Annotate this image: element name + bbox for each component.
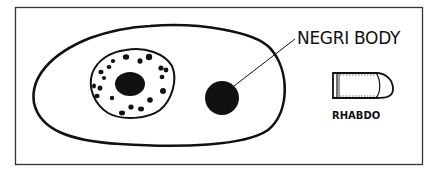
rhabdovirus-bullet-icon bbox=[333, 73, 393, 98]
nucleolus bbox=[115, 72, 145, 96]
diagram-frame: NEGRI BODY RHABDO bbox=[0, 0, 438, 174]
rhabdo-label: RHABDO bbox=[332, 110, 380, 121]
cell-outline bbox=[33, 25, 284, 146]
negri-body-leader-line bbox=[234, 39, 295, 86]
negri-body-label: NEGRI BODY bbox=[297, 28, 401, 48]
negri-body bbox=[205, 81, 239, 115]
diagram-canvas: NEGRI BODY RHABDO bbox=[0, 0, 438, 174]
